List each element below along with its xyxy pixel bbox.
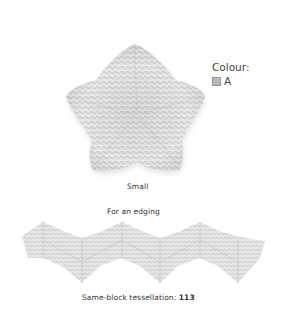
star-caption: Small [127,182,148,191]
colour-legend-item: A [212,76,231,86]
edging-strip-image [0,0,293,318]
tessellation-caption: Same-block tessellation: 113 [82,293,195,302]
colour-legend-title: Colour: [212,61,249,73]
colour-swatch-label: A [224,76,231,86]
edging-heading: For an edging [107,207,160,216]
tessellation-caption-text: Same-block tessellation: [82,293,179,302]
colour-swatch-a [212,77,221,86]
tessellation-number: 113 [179,293,195,302]
